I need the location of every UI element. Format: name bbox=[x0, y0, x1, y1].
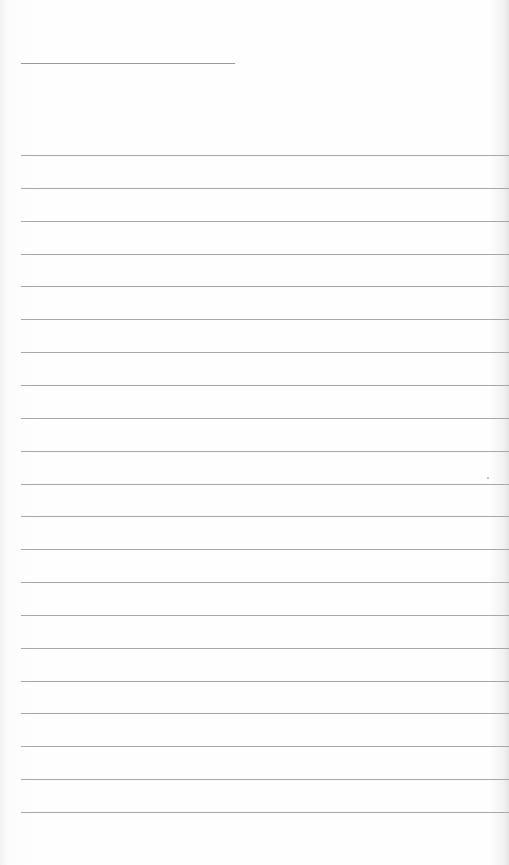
ruled-line bbox=[21, 286, 509, 287]
ruled-line bbox=[21, 812, 509, 813]
ruled-line bbox=[21, 549, 509, 550]
ruled-line bbox=[21, 713, 509, 714]
ruled-line bbox=[21, 648, 509, 649]
ruled-line bbox=[21, 254, 509, 255]
ruled-line bbox=[21, 451, 509, 452]
paper-speck bbox=[487, 477, 489, 479]
ruled-line bbox=[21, 681, 509, 682]
lined-paper bbox=[0, 0, 509, 865]
ruled-line bbox=[21, 779, 509, 780]
ruled-line bbox=[21, 418, 509, 419]
ruled-line bbox=[21, 746, 509, 747]
ruled-line bbox=[21, 615, 509, 616]
title-line bbox=[21, 63, 235, 64]
ruled-line bbox=[21, 582, 509, 583]
ruled-line bbox=[21, 385, 509, 386]
ruled-line bbox=[21, 352, 509, 353]
ruled-line bbox=[21, 484, 509, 485]
ruled-line bbox=[21, 188, 509, 189]
ruled-line bbox=[21, 319, 509, 320]
ruled-line bbox=[21, 221, 509, 222]
ruled-line bbox=[21, 155, 509, 156]
ruled-line bbox=[21, 516, 509, 517]
